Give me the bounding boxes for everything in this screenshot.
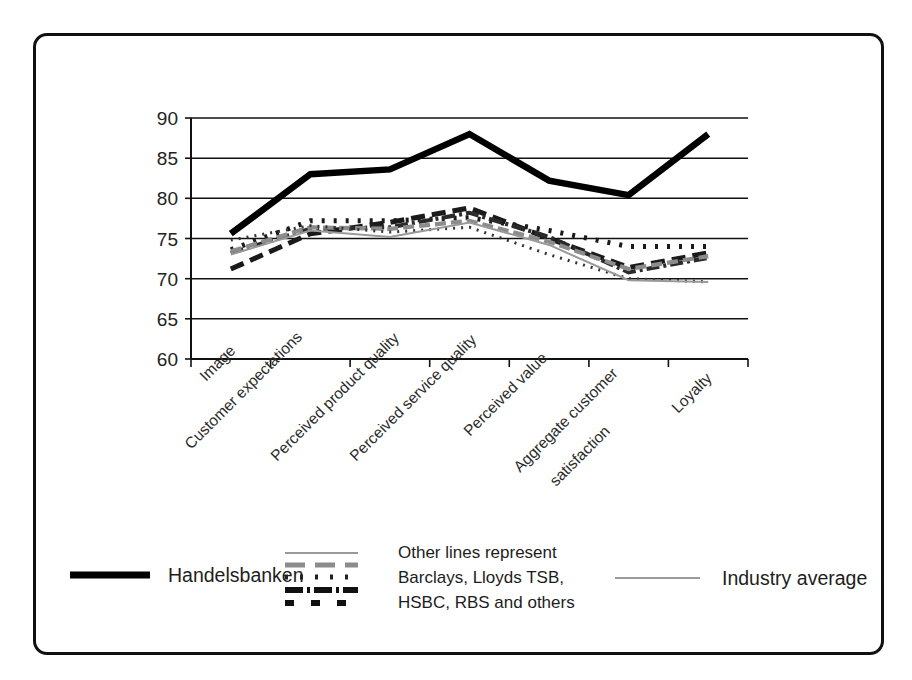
y-tick-label: 85 bbox=[157, 148, 178, 169]
y-tick-label: 70 bbox=[157, 269, 178, 290]
y-tick-label: 65 bbox=[157, 309, 178, 330]
legend-label-other-lines-3: HSBC, RBS and others bbox=[398, 593, 575, 612]
y-tick-label: 60 bbox=[157, 349, 178, 370]
legend: Handelsbanken Other lines represent Barc… bbox=[0, 540, 912, 660]
y-tick-labels: 90 85 80 75 70 65 60 bbox=[157, 108, 178, 370]
legend-label-handelsbanken: Handelsbanken bbox=[168, 564, 304, 586]
x-tick-label: Perceived value bbox=[460, 349, 550, 439]
y-tick-label: 75 bbox=[157, 229, 178, 250]
legend-label-other-lines-2: Barclays, Lloyds TSB, bbox=[398, 568, 564, 587]
x-tick-label: Loyalty bbox=[668, 369, 715, 416]
legend-label-industry-average: Industry average bbox=[722, 567, 867, 589]
figure-container: 90 85 80 75 70 65 60 Image Customer expe… bbox=[0, 0, 912, 680]
y-tick-label: 80 bbox=[157, 188, 178, 209]
legend-label-other-lines-1: Other lines represent bbox=[398, 543, 557, 562]
y-tick-label: 90 bbox=[157, 108, 178, 129]
